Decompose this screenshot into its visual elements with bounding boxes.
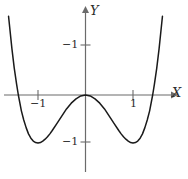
x-axis-label: X — [172, 86, 181, 99]
y-axis-label: Y — [90, 4, 99, 17]
plot-canvas — [0, 0, 188, 179]
x-tick-label-negative-one: −1 — [30, 98, 46, 109]
function-graph-figure: X Y −1 1 −1 −1 — [0, 0, 188, 179]
y-tick-label-lower: −1 — [62, 136, 78, 147]
x-tick-label-positive-one: 1 — [130, 98, 137, 109]
y-tick-label-upper: −1 — [62, 39, 78, 50]
